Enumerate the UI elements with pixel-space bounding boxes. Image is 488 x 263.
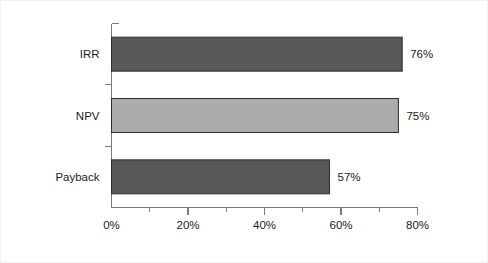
x-axis-tick-label: 40% [253,219,276,231]
category-label-irr: IRR [80,48,100,60]
x-axis-tick-label: 80% [406,219,429,231]
x-axis-tick-label: 0% [103,219,120,231]
value-label-payback: 57% [338,171,361,183]
bar-npv [112,99,399,133]
category-label-npv: NPV [76,110,100,122]
x-axis-tick-label: 20% [176,219,199,231]
chart-container: IRR76%NPV75%Payback57%0%20%40%60%80% [0,0,488,263]
bar-chart: IRR76%NPV75%Payback57%0%20%40%60%80% [1,1,488,263]
x-axis-tick-label: 60% [329,219,352,231]
value-label-npv: 75% [406,110,429,122]
category-label-payback: Payback [55,171,99,183]
value-label-irr: 76% [410,48,433,60]
bar-payback [112,160,330,194]
bar-irr [112,37,403,71]
